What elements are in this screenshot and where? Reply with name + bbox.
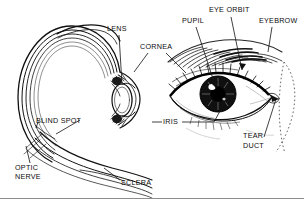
sclera-tail — [80, 170, 124, 181]
label-tear-duct-line2: DUCT — [243, 142, 264, 151]
leader-cornea — [134, 53, 148, 72]
label-tear-duct-line1: TEAR — [243, 132, 263, 141]
label-pupil: PUPIL — [182, 17, 204, 26]
leader-optic-nerve — [26, 146, 30, 163]
label-cornea: CORNEA — [140, 43, 172, 52]
label-blind-spot: BLIND SPOT — [36, 117, 81, 126]
eye-anatomy-figure: LENS CORNEA PUPIL EYE ORBIT EYEBROW BLIN… — [0, 0, 304, 199]
label-eye-orbit: EYE ORBIT — [209, 6, 250, 15]
label-eyebrow: EYEBROW — [259, 17, 298, 26]
leader-eyebrow — [268, 27, 272, 52]
eye-front-view — [168, 40, 295, 153]
retina-layer — [34, 42, 108, 146]
label-sclera: SCLERA — [121, 179, 151, 188]
label-optic-nerve-line2: NERVE — [15, 173, 41, 182]
leader-tear-duct — [264, 99, 276, 137]
label-iris: IRIS — [163, 118, 178, 127]
eye-diagram-artwork — [0, 0, 304, 199]
arrowhead-eye-orbit — [239, 63, 246, 70]
lens-body — [112, 84, 132, 116]
eyebrow — [168, 40, 282, 68]
tear-duct-outline — [276, 62, 295, 153]
label-lens: LENS — [107, 25, 127, 34]
